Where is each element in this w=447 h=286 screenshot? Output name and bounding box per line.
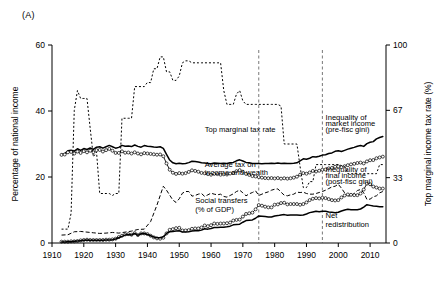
x-tick-label: 1930 <box>106 250 125 260</box>
series-marker <box>378 187 381 190</box>
series-marker <box>264 205 267 208</box>
series-marker <box>283 177 286 180</box>
series-marker <box>194 227 197 230</box>
series-marker <box>365 160 368 163</box>
series-marker <box>254 208 257 211</box>
series-marker <box>334 199 337 202</box>
series-marker <box>381 187 384 190</box>
series-marker <box>79 151 82 154</box>
series-marker <box>343 194 346 197</box>
series-marker <box>222 222 225 225</box>
series-marker <box>178 172 181 175</box>
axes-group <box>48 45 390 247</box>
series-marker <box>133 151 136 154</box>
series-marker <box>124 151 127 154</box>
series-marker <box>295 203 298 206</box>
series-marker <box>305 201 308 204</box>
series-marker <box>197 170 200 173</box>
series-marker <box>219 222 222 225</box>
series-marker <box>248 212 251 215</box>
annotations-group: Top marginal tax rateInequality ofmarket… <box>195 113 375 228</box>
series-marker <box>168 228 171 231</box>
series-marker <box>108 147 111 150</box>
series-marker <box>292 203 295 206</box>
series-marker <box>146 152 149 155</box>
series-marker <box>127 151 130 154</box>
series-marker <box>273 203 276 206</box>
series-marker <box>289 203 292 206</box>
series-marker <box>289 177 292 180</box>
series-marker <box>280 202 283 205</box>
series-marker <box>162 155 165 158</box>
series-marker <box>203 224 206 227</box>
series-marker <box>85 151 88 154</box>
series-marker <box>251 211 254 214</box>
series-marker <box>197 227 200 230</box>
y-axis-left-title: Percentage of national income <box>10 86 20 201</box>
series-marker <box>114 151 117 154</box>
series-marker <box>159 153 162 156</box>
series-marker <box>378 156 381 159</box>
series-marker <box>286 177 289 180</box>
y-axis-right-title: Top marginal income tax rate (%) <box>423 81 433 206</box>
series-marker <box>82 150 85 153</box>
series-marker <box>111 149 114 152</box>
series-marker <box>337 199 340 202</box>
series-marker <box>66 151 69 154</box>
series-marker <box>245 212 248 215</box>
series-marker <box>165 162 168 165</box>
y-right-tick-label: 33 <box>393 173 403 183</box>
series-marker <box>175 227 178 230</box>
series-marker <box>190 227 193 230</box>
annotation-market_income_gini: (pre-fisc gini) <box>326 125 370 134</box>
annotation-social_transfers: (% of GDP) <box>195 205 234 214</box>
series-marker <box>308 171 311 174</box>
series-marker <box>356 194 359 197</box>
series-marker <box>369 159 372 162</box>
series-marker <box>346 193 349 196</box>
series-marker <box>276 203 279 206</box>
series-marker <box>140 153 143 156</box>
series-marker <box>76 150 79 153</box>
series-marker <box>270 206 273 209</box>
y-right-tick-label: 0 <box>393 238 398 248</box>
series-marker <box>321 196 324 199</box>
series-marker <box>89 149 92 152</box>
series-marker <box>143 152 146 155</box>
series-marker <box>216 222 219 225</box>
chart-svg: 0204060033671001910192019301940195019601… <box>0 0 447 286</box>
series-marker <box>63 153 66 156</box>
series-marker <box>283 201 286 204</box>
series-marker <box>194 169 197 172</box>
series-marker <box>155 153 158 156</box>
series-marker <box>175 172 178 175</box>
series-marker <box>381 155 384 158</box>
series-marker <box>181 172 184 175</box>
series-marker <box>353 194 356 197</box>
series-marker <box>95 149 98 152</box>
y-left-tick-label: 60 <box>36 40 46 50</box>
series-marker <box>375 157 378 160</box>
series-marker <box>171 171 174 174</box>
series-marker <box>101 150 104 153</box>
x-tick-label: 1970 <box>233 250 252 260</box>
x-tick-label: 2010 <box>361 250 380 260</box>
series-marker <box>260 204 263 207</box>
series-marker <box>327 198 330 201</box>
series-marker <box>276 177 279 180</box>
series-marker <box>311 197 314 200</box>
series-marker <box>187 170 190 173</box>
series-marker <box>330 199 333 202</box>
series-marker <box>292 176 295 179</box>
x-tick-label: 2000 <box>329 250 348 260</box>
series-marker <box>206 225 209 228</box>
series-marker <box>350 193 353 196</box>
series-marker <box>70 150 73 153</box>
series-marker <box>60 153 63 156</box>
series-marker <box>267 206 270 209</box>
series-marker <box>302 172 305 175</box>
annotation-net_redistribution: redistribution <box>326 220 369 229</box>
series-marker <box>359 161 362 164</box>
series-marker <box>257 204 260 207</box>
reference-lines-group <box>259 50 323 243</box>
